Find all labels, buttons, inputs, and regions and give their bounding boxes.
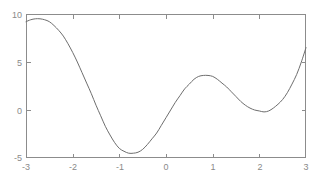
y-tick-label: 10 [12, 10, 22, 20]
plot-area-background [26, 14, 306, 158]
x-tick-label: -1 [116, 162, 124, 172]
x-tick-label: -2 [69, 162, 77, 172]
x-tick-label: 1 [210, 162, 215, 172]
line-chart: -3 -2 -1 0 1 2 3 10 5 0 -5 [0, 0, 316, 177]
x-tick-label: -3 [22, 162, 30, 172]
x-tick-label: 3 [303, 162, 308, 172]
x-tick-label: 2 [257, 162, 262, 172]
y-tick-label: 5 [17, 58, 22, 68]
x-tick-label: 0 [163, 162, 168, 172]
figure-canvas: -3 -2 -1 0 1 2 3 10 5 0 -5 [0, 0, 316, 177]
y-tick-label: -5 [14, 153, 22, 163]
y-tick-label: 0 [17, 106, 22, 116]
y-axis-tick-labels: 10 5 0 -5 [12, 10, 22, 164]
x-axis-tick-labels: -3 -2 -1 0 1 2 3 [22, 162, 309, 172]
